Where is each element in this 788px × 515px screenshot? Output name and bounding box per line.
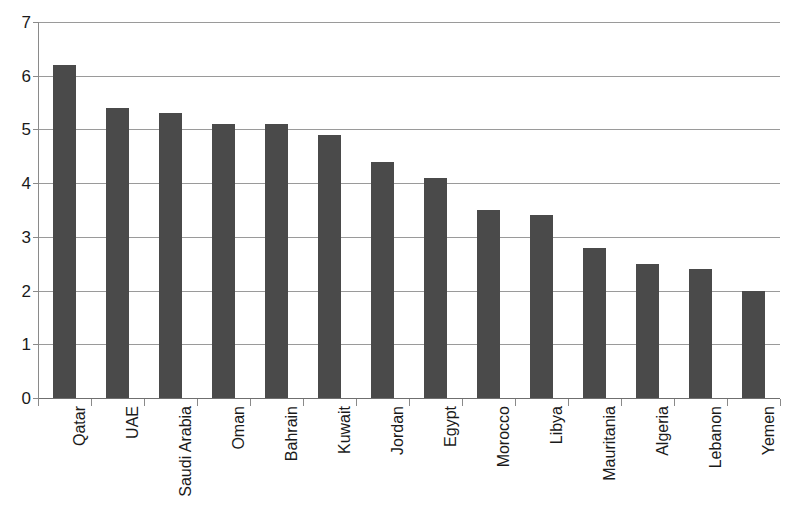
gridline bbox=[38, 76, 780, 77]
y-axis-tick-label: 5 bbox=[5, 121, 31, 138]
bar-chart: 01234567 QatarUAESaudi ArabiaOmanBahrain… bbox=[0, 0, 788, 515]
y-axis-tick-label: 4 bbox=[5, 175, 31, 192]
y-axis-line bbox=[38, 22, 39, 399]
y-axis-tick-label: 3 bbox=[5, 229, 31, 246]
y-axis-tick-mark bbox=[33, 76, 39, 77]
bar bbox=[212, 124, 235, 398]
y-axis-tick-label: 7 bbox=[5, 14, 31, 31]
x-axis-category-label: Morocco bbox=[496, 406, 512, 467]
y-axis-tick-mark bbox=[33, 291, 39, 292]
bar bbox=[265, 124, 288, 398]
x-axis-tick-mark bbox=[568, 399, 569, 406]
bar bbox=[583, 248, 606, 398]
x-axis-category-labels: QatarUAESaudi ArabiaOmanBahrainKuwaitJor… bbox=[0, 398, 788, 515]
bar bbox=[689, 269, 712, 398]
y-axis-tick-mark bbox=[33, 129, 39, 130]
gridline bbox=[38, 183, 780, 184]
y-axis-tick-mark bbox=[33, 22, 39, 23]
bar bbox=[477, 210, 500, 398]
bar bbox=[742, 291, 765, 398]
x-axis-category-label: Jordan bbox=[390, 406, 406, 455]
y-axis-tick-mark bbox=[33, 344, 39, 345]
gridline bbox=[38, 237, 780, 238]
x-axis-tick-mark bbox=[462, 399, 463, 406]
y-axis-tick-label: 2 bbox=[5, 283, 31, 300]
x-axis-tick-mark bbox=[621, 399, 622, 406]
x-axis-tick-mark bbox=[727, 399, 728, 406]
gridline bbox=[38, 291, 780, 292]
bar bbox=[159, 113, 182, 398]
x-axis-category-label: Oman bbox=[231, 406, 247, 450]
x-axis-tick-mark bbox=[144, 399, 145, 406]
x-axis-tick-mark bbox=[197, 399, 198, 406]
x-axis-category-label: Saudi Arabia bbox=[178, 406, 194, 497]
x-axis-category-label: Qatar bbox=[72, 406, 88, 446]
gridline bbox=[38, 344, 780, 345]
y-axis-tick-mark bbox=[33, 183, 39, 184]
x-axis-tick-mark bbox=[356, 399, 357, 406]
bar bbox=[530, 215, 553, 398]
x-axis-tick-mark bbox=[409, 399, 410, 406]
plot-area bbox=[38, 22, 780, 398]
bar bbox=[318, 135, 341, 398]
x-axis-category-label: Lebanon bbox=[708, 406, 724, 468]
x-axis-category-label: Yemen bbox=[761, 406, 777, 455]
bar bbox=[636, 264, 659, 398]
y-axis-tick-label: 1 bbox=[5, 336, 31, 353]
x-axis-tick-mark bbox=[674, 399, 675, 406]
bar bbox=[371, 162, 394, 398]
x-axis-category-label: UAE bbox=[125, 406, 141, 439]
x-axis-category-label: Algeria bbox=[655, 406, 671, 456]
x-axis-tick-mark bbox=[303, 399, 304, 406]
bar bbox=[53, 65, 76, 398]
x-axis-tick-mark bbox=[780, 399, 781, 406]
x-axis-tick-mark bbox=[515, 399, 516, 406]
y-axis-tick-label: 6 bbox=[5, 68, 31, 85]
x-axis-category-label: Egypt bbox=[443, 406, 459, 447]
bar bbox=[424, 178, 447, 398]
chart-title bbox=[38, 0, 778, 5]
bar bbox=[106, 108, 129, 398]
gridline bbox=[38, 129, 780, 130]
x-axis-tick-mark bbox=[91, 399, 92, 406]
x-axis-tick-mark bbox=[38, 399, 39, 406]
gridline bbox=[38, 22, 780, 23]
x-axis-category-label: Mauritania bbox=[602, 406, 618, 481]
x-axis-category-label: Libya bbox=[549, 406, 565, 444]
x-axis-tick-mark bbox=[250, 399, 251, 406]
y-axis-tick-mark bbox=[33, 237, 39, 238]
x-axis-category-label: Kuwait bbox=[337, 406, 353, 454]
x-axis-category-label: Bahrain bbox=[284, 406, 300, 461]
